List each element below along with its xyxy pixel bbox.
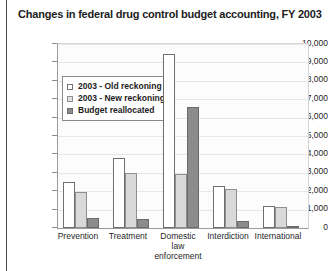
legend-swatch-new-reckoning-icon <box>67 96 73 102</box>
legend-swatch-old-reckoning-icon <box>67 84 73 90</box>
legend-swatch-budget-reallocated-icon <box>67 108 73 114</box>
x-axis-category-label: Interdiction <box>203 231 253 241</box>
bar <box>275 207 287 228</box>
chart-legend: 2003 - Old reckoning2003 - New reckoning… <box>62 76 172 121</box>
bar <box>137 219 149 228</box>
bar-group <box>158 44 208 228</box>
bar <box>125 173 137 228</box>
bar <box>213 186 225 228</box>
x-axis-category-label: Domestic law enforcement <box>153 231 203 261</box>
bar <box>175 174 187 228</box>
legend-item-label: 2003 - Old reckoning <box>78 82 162 91</box>
bar <box>225 189 237 228</box>
bar <box>63 182 75 228</box>
bar-group <box>258 44 308 228</box>
plot-area <box>57 43 309 229</box>
x-axis-category-label: International <box>253 231 303 241</box>
x-axis-category-label: Prevention <box>53 231 103 241</box>
bar <box>75 192 87 228</box>
bar <box>87 218 99 228</box>
bar <box>237 221 249 228</box>
plot-wrapper: 01,0002,0003,0004,0005,0006,0007,0008,00… <box>0 0 328 271</box>
bar <box>263 206 275 228</box>
bar <box>113 158 125 228</box>
legend-item-label: Budget reallocated <box>78 106 155 115</box>
bar-group <box>58 44 108 228</box>
bar-group <box>108 44 158 228</box>
bar <box>163 54 175 228</box>
x-axis-category-label: Treatment <box>103 231 153 241</box>
bar <box>187 107 199 228</box>
legend-item: 2003 - New reckoning <box>67 93 165 104</box>
bar <box>287 226 299 228</box>
chart-figure: Changes in federal drug control budget a… <box>0 0 328 271</box>
legend-item: 2003 - Old reckoning <box>67 81 165 92</box>
legend-item: Budget reallocated <box>67 105 165 116</box>
bar-group <box>208 44 258 228</box>
legend-item-label: 2003 - New reckoning <box>78 94 165 103</box>
